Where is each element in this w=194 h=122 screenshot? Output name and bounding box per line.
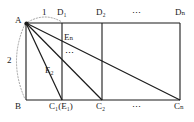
vertex-label-a: A (15, 16, 22, 25)
dimension-label-left: 2 (7, 56, 12, 65)
geometry-figure: A B D₁ D₂ Dₙ C₁(E₁) C₂ Cₙ Eₙ E₂ 1 2 ⋯ ⋯ … (0, 0, 194, 122)
arc-top-dimension (28, 17, 62, 22)
ellipsis-top: ⋯ (132, 9, 142, 18)
vertex-a-marker (24, 21, 28, 25)
arc-left-dimension (17, 24, 26, 99)
ellipsis-bottom: ⋯ (132, 103, 142, 112)
vertex-label-cn: Cₙ (174, 102, 184, 111)
vertex-label-b: B (15, 102, 21, 111)
point-label-en: Eₙ (64, 33, 73, 42)
vertex-label-dn: Dₙ (175, 8, 185, 17)
ellipsis-vertical: ⋮ (64, 48, 73, 57)
vertex-label-c1-e1: C₁(E₁) (49, 102, 73, 111)
dimension-label-top: 1 (42, 8, 47, 17)
diagonal-a-to-cn (26, 23, 180, 100)
vertex-label-c2: C₂ (96, 102, 105, 111)
point-label-e2: E₂ (45, 66, 54, 75)
vertex-label-d1: D₁ (57, 8, 67, 17)
vertex-label-d2: D₂ (96, 8, 106, 17)
diagonal-a-to-c1 (26, 23, 62, 100)
